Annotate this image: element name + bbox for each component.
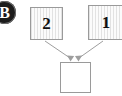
edge-two-to-target [45, 41, 74, 62]
node-two[interactable]: 2 [30, 7, 63, 40]
node-two-label: 2 [42, 15, 51, 32]
node-target[interactable] [60, 62, 91, 93]
node-one-label: 1 [102, 14, 111, 31]
diagram-canvas: B 2 1 [0, 0, 122, 96]
step-badge-label: B [0, 1, 16, 24]
step-badge: B [0, 1, 16, 24]
node-one[interactable]: 1 [88, 5, 122, 40]
edge-one-to-target [75, 41, 103, 62]
